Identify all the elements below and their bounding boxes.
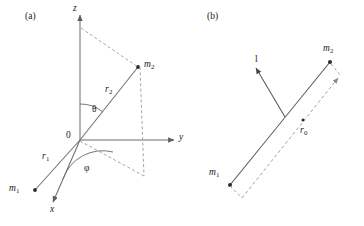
panel-b-tag: (b) xyxy=(207,12,218,22)
panel-a-m1-base: m xyxy=(9,183,16,193)
r1-vector xyxy=(35,140,80,190)
panel-b-m2-subscript: 2 xyxy=(330,47,333,54)
diagram-vector-layer xyxy=(0,0,364,226)
panel-a-m2-label: m2 xyxy=(144,60,154,71)
panel-b-m2-base: m xyxy=(323,43,330,53)
panel-a-m1-label: m1 xyxy=(9,184,19,195)
r0-vector xyxy=(242,78,338,198)
y-axis-label: y xyxy=(179,133,183,143)
r0-vector-label: r0 xyxy=(300,126,307,137)
z-axis-label: z xyxy=(73,4,77,14)
r2-subscript: 2 xyxy=(109,88,112,95)
dashed-z-to-m2 xyxy=(81,28,138,67)
panel-b-m1-label: m1 xyxy=(209,168,219,179)
panelb-m2-marker xyxy=(328,60,332,64)
panel-a-m2-base: m xyxy=(144,59,151,69)
dashed-connector-m2 xyxy=(331,64,341,76)
origin-label: 0 xyxy=(66,131,71,141)
r1-subscript: 1 xyxy=(46,155,49,162)
r2-vector-label: r2 xyxy=(105,85,112,96)
panel-b-m1-base: m xyxy=(209,167,216,177)
panel-a-geometry xyxy=(33,15,174,202)
panel-b-m1-subscript: 1 xyxy=(216,171,219,178)
dashed-m2-drop xyxy=(140,67,144,176)
dashed-origin-to-foot xyxy=(80,141,144,176)
panel-a-tag: (a) xyxy=(25,12,36,22)
panel-b-geometry xyxy=(228,60,341,198)
x-axis-label: x xyxy=(50,205,54,215)
panel-a-m2-subscript: 2 xyxy=(151,63,154,70)
r2-vector xyxy=(80,67,138,140)
theta-angle-label: θ xyxy=(92,105,97,115)
panel-b-m2-label: m2 xyxy=(323,44,333,55)
r1-vector-label: r1 xyxy=(42,152,49,163)
l-vector-label: l xyxy=(255,55,258,65)
dumbbell-axis xyxy=(230,62,330,185)
m1-point-marker xyxy=(33,188,37,192)
panel-a-m1-subscript: 1 xyxy=(16,187,19,194)
r0-mid-marker xyxy=(302,119,305,122)
r0-subscript: 0 xyxy=(304,129,307,136)
dashed-connector-m1 xyxy=(230,186,242,198)
phi-angle-label: φ xyxy=(84,164,89,174)
l-vector xyxy=(256,68,285,117)
figure-canvas: (a) (b) z y x 0 m2 m1 r2 r1 θ φ l m2 m1 … xyxy=(0,0,364,226)
